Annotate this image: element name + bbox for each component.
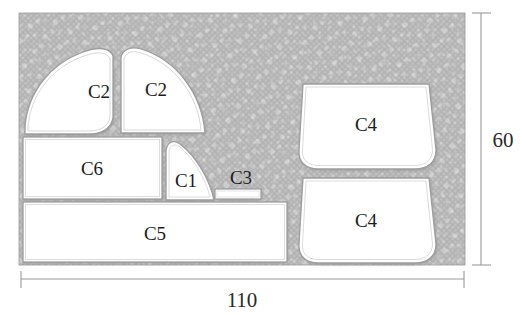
part-label: C6 [81,158,103,179]
figure-canvas: C2 C2 C6 C1 C3 C5 [0,0,521,315]
part-label: C2 [88,81,110,102]
dimension-width: 110 [21,271,464,312]
part-c5[interactable]: C5 [23,202,287,262]
dimension-height: 60 [472,13,514,265]
part-c6[interactable]: C6 [23,137,162,199]
part-label: C5 [144,223,166,244]
nesting-diagram-svg: C2 C2 C6 C1 C3 C5 [0,0,521,315]
part-label: C2 [145,79,167,100]
part-c4-bottom[interactable]: C4 [299,178,436,263]
part-label: C4 [355,114,378,135]
part-label: C3 [230,167,252,188]
dimension-width-label: 110 [227,288,258,312]
part-label: C1 [175,170,197,191]
part-c4-top[interactable]: C4 [299,84,436,169]
dimension-height-label: 60 [493,128,514,152]
part-label: C4 [355,210,378,231]
